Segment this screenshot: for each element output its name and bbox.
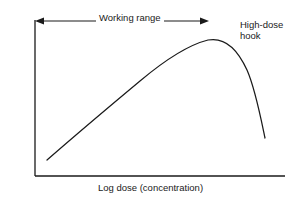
working-range-arrowhead-left: [35, 18, 44, 25]
axes: [35, 20, 285, 176]
working-range-label: Working range: [96, 13, 164, 24]
dose-response-curve: [47, 40, 265, 160]
high-dose-hook-label: High-dose hook: [240, 20, 283, 42]
curve-path: [47, 40, 265, 160]
x-axis-label: Log dose (concentration): [0, 183, 301, 194]
dose-response-figure: Working range High-dose hook Log signal …: [0, 0, 301, 201]
working-range-arrowhead-right: [200, 18, 209, 25]
